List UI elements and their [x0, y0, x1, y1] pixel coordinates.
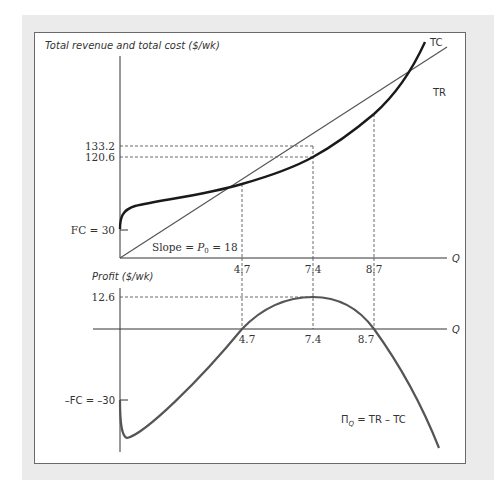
tr-label: TR: [432, 87, 446, 98]
slope-label: Slope = P0 = 18: [152, 241, 238, 255]
tick-12-6: 12.6: [92, 291, 116, 303]
profit-curve: [120, 297, 439, 448]
bottom-q-label: Q: [452, 324, 460, 335]
top-y-axis-label: Total revenue and total cost ($/wk): [45, 40, 220, 51]
chart-svg: Total revenue and total cost ($/wk) Q 13…: [0, 0, 494, 493]
profit-label: ΠQ = TR – TC: [341, 414, 406, 428]
top-q-label: Q: [452, 253, 460, 264]
bottom-x-tick-7-4: 7.4: [305, 333, 322, 345]
bottom-y-axis-label: Profit ($/wk): [92, 271, 153, 282]
tr-line: [120, 47, 447, 258]
tc-label: TC: [429, 37, 443, 48]
top-guides: [120, 114, 374, 258]
fc-label: FC = 30: [71, 224, 115, 236]
bottom-x-tick-8-7: 8.7: [358, 333, 375, 345]
tc-curve: [120, 42, 425, 229]
neg-fc-label: –FC = –30: [65, 395, 115, 406]
bottom-x-tick-4-7: 4.7: [239, 333, 256, 345]
tick-120: 120.6: [85, 151, 115, 163]
